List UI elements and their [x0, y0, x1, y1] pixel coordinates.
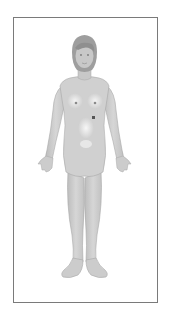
female-body-illustration	[0, 0, 169, 320]
lesion-marker	[92, 116, 95, 119]
feet	[62, 258, 108, 278]
right-nipple	[94, 102, 97, 105]
lower-abdomen	[80, 140, 92, 148]
abdomen	[78, 117, 94, 139]
legs	[68, 170, 102, 262]
left-nipple	[75, 102, 78, 105]
right-breast	[87, 93, 103, 109]
left-breast	[67, 93, 83, 109]
head	[72, 35, 97, 72]
